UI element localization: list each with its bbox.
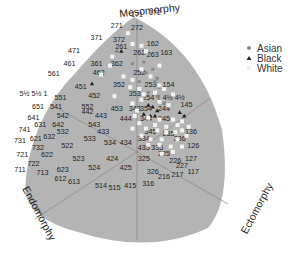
- grid-label: 722: [28, 159, 40, 168]
- grid-label: 361: [91, 59, 103, 68]
- grid-label: 631: [34, 120, 46, 129]
- data-point-white: [180, 145, 184, 149]
- data-point-white: [108, 64, 112, 68]
- grid-label: 541: [50, 102, 62, 111]
- grid-label: 721: [16, 150, 28, 159]
- data-point-white: [158, 118, 162, 122]
- grid-label: 713: [37, 168, 49, 177]
- grid-label: 542: [57, 111, 69, 120]
- data-point-white: [99, 73, 103, 77]
- grid-label: 227: [176, 161, 188, 170]
- grid-label: 325: [138, 154, 150, 163]
- grid-label: 354: [140, 104, 152, 113]
- data-point-white: [113, 94, 117, 98]
- data-point-white: [176, 137, 180, 141]
- grid-label: 424: [106, 154, 118, 163]
- data-point-white: [144, 127, 148, 131]
- grid-label: 731: [14, 136, 26, 145]
- data-point-asian: [144, 71, 148, 75]
- grid-label: 162: [147, 39, 159, 48]
- data-point-white: [180, 119, 184, 123]
- data-point-white: [173, 130, 177, 134]
- data-point-white: [142, 92, 146, 96]
- data-point-white: [149, 137, 153, 141]
- legend-marker-white: [247, 66, 251, 70]
- data-point-asian: [142, 60, 146, 64]
- legend-label-white: White: [257, 63, 283, 74]
- grid-label: 621: [30, 134, 42, 143]
- grid-label: 352: [113, 80, 125, 89]
- data-point-white: [128, 85, 132, 89]
- grid-label: 433: [97, 127, 109, 136]
- data-point-asian: [153, 80, 157, 84]
- grid-label: 171: [131, 10, 143, 19]
- data-point-white: [131, 101, 135, 105]
- grid-label: 263: [147, 50, 159, 59]
- data-point-white: [140, 44, 144, 48]
- data-point-white: [171, 150, 175, 154]
- data-point-white: [149, 74, 153, 78]
- data-point-white: [164, 125, 168, 129]
- data-point-white: [180, 128, 184, 132]
- somatochart: Mesomorphy Endomorphy Ectomorphy 1711722…: [0, 0, 291, 254]
- data-point-white: [171, 118, 175, 122]
- grid-label: 514: [95, 181, 107, 190]
- data-point-white: [155, 128, 159, 132]
- data-point-asian: [137, 80, 141, 84]
- data-point-white: [131, 42, 135, 46]
- grid-label: 216: [158, 172, 170, 181]
- grid-label: 533: [84, 134, 96, 143]
- grid-label: 434: [120, 138, 132, 147]
- data-point-asian: [115, 49, 119, 53]
- data-point-white: [169, 145, 173, 149]
- data-point-white: [133, 114, 137, 118]
- data-point-asian: [131, 62, 135, 66]
- grid-label: 163: [160, 48, 172, 57]
- grid-label: 362: [111, 59, 123, 68]
- grid-label: 217: [172, 170, 184, 179]
- axis-title-ectomorphy: Ectomorphy: [238, 180, 275, 236]
- data-point-white: [137, 121, 141, 125]
- grid-label: 5½ 5½ 1: [20, 89, 48, 98]
- data-point-white: [171, 92, 175, 96]
- data-point-asian: [155, 76, 159, 80]
- grid-label: 452: [88, 91, 100, 100]
- grid-label: 461: [64, 59, 76, 68]
- data-point-white: [160, 137, 164, 141]
- data-point-white: [146, 116, 150, 120]
- legend-marker-asian: [247, 46, 251, 50]
- data-point-white: [158, 64, 162, 68]
- grid-label: 471: [68, 46, 80, 55]
- data-point-white: [144, 49, 148, 53]
- grid-label: 443: [95, 111, 107, 120]
- data-point-white: [131, 127, 135, 131]
- grid-label: 561: [48, 69, 60, 78]
- data-point-white: [122, 74, 126, 78]
- data-point-white: [140, 134, 144, 138]
- data-point-white: [158, 83, 162, 87]
- grid-label: 632: [43, 132, 55, 141]
- data-point-asian: [162, 102, 166, 106]
- data-point-white: [176, 123, 180, 127]
- data-point-white: [110, 55, 114, 59]
- grid-label: 551: [55, 93, 67, 102]
- grid-label: 451: [75, 82, 87, 91]
- data-point-white: [162, 87, 166, 91]
- grid-label: 444: [120, 114, 132, 123]
- data-point-white: [158, 143, 162, 147]
- grid-label: 651: [32, 102, 44, 111]
- data-point-white: [164, 130, 168, 134]
- grid-label: 415: [124, 181, 136, 190]
- data-point-white: [160, 152, 164, 156]
- grid-label: 515: [109, 183, 121, 192]
- data-point-white: [185, 134, 189, 138]
- grid-label: 326: [147, 167, 159, 176]
- grid-label: 523: [73, 154, 85, 163]
- grid-label: 172: [149, 8, 161, 17]
- grid-label: 622: [41, 150, 53, 159]
- data-point-white: [153, 123, 157, 127]
- data-point-asian: [151, 67, 155, 71]
- data-point-white: [126, 31, 130, 35]
- grid-label: 272: [131, 23, 143, 32]
- grid-label: 612: [55, 174, 67, 183]
